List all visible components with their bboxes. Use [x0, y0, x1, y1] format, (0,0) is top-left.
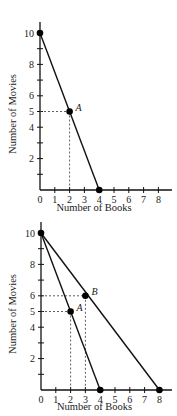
data-point-marker: [82, 293, 89, 300]
ppf-charts: 2456810012345678Number of BooksNumber of…: [0, 0, 177, 416]
data-point-marker: [67, 308, 74, 315]
data-point-marker: [156, 387, 163, 394]
x-tick-label: 8: [156, 194, 161, 205]
y-tick-label: 10: [25, 228, 35, 239]
chart-panel-2: 2456810012345678Number of BooksNumber of…: [7, 222, 172, 412]
y-tick-label: 8: [30, 259, 35, 270]
point-label-A: A: [76, 302, 84, 313]
x-axis-title: Number of Books: [57, 401, 132, 412]
x-tick-label: 0: [38, 194, 43, 205]
x-tick-label: 7: [142, 394, 147, 405]
y-tick-label: 5: [29, 106, 34, 117]
y-tick-label: 6: [29, 90, 34, 101]
data-point-marker: [37, 30, 44, 37]
data-point-marker: [38, 230, 45, 237]
y-tick-label: 5: [30, 306, 35, 317]
point-label-A: A: [75, 102, 83, 113]
y-axis-title: Number of Movies: [7, 274, 18, 354]
y-tick-label: 6: [30, 290, 35, 301]
chart-panel-1: 2456810012345678Number of BooksNumber of…: [7, 22, 172, 213]
y-tick-label: 4: [29, 122, 34, 133]
y-axis-title: Number of Movies: [7, 74, 18, 154]
point-label-B: B: [91, 286, 97, 297]
y-tick-label: 2: [30, 353, 35, 364]
x-axis-title: Number of Books: [56, 202, 131, 213]
x-tick-label: 7: [141, 194, 146, 205]
data-point-marker: [66, 108, 73, 115]
x-tick-label: 0: [39, 394, 44, 405]
y-tick-label: 2: [29, 153, 34, 164]
y-tick-label: 8: [29, 59, 34, 70]
data-point-marker: [96, 187, 103, 194]
x-tick-label: 8: [157, 394, 162, 405]
y-tick-label: 10: [24, 28, 34, 39]
data-point-marker: [97, 387, 104, 394]
y-tick-label: 4: [30, 322, 35, 333]
